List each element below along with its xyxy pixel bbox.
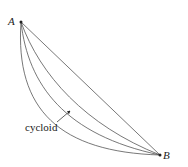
cycloid-arrow (57, 111, 70, 122)
cycloid-label: cycloid (25, 121, 58, 133)
brachistochrone-diagram: A B cycloid (0, 0, 188, 167)
point-a-label: A (7, 15, 15, 27)
straight-line-path (21, 22, 160, 155)
point-b-label: B (163, 149, 170, 161)
point-a-dot (20, 21, 23, 24)
point-b-dot (159, 154, 162, 157)
